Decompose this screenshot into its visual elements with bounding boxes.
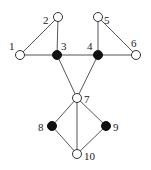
edge-3-7 (57, 55, 77, 98)
node-4 (94, 51, 103, 60)
node-label-2: 2 (43, 14, 49, 26)
node-8 (48, 122, 57, 131)
nodes-layer (16, 13, 141, 159)
node-7 (73, 94, 82, 103)
node-label-4: 4 (87, 40, 93, 52)
edge-7-8 (52, 98, 77, 126)
edge-1-2 (20, 17, 58, 55)
node-10 (73, 150, 82, 159)
node-6 (132, 51, 141, 60)
edge-8-10 (52, 126, 77, 154)
edge-2-3 (57, 17, 58, 55)
node-label-5: 5 (104, 14, 110, 26)
node-label-6: 6 (131, 37, 137, 49)
node-label-1: 1 (9, 40, 15, 52)
node-label-9: 9 (113, 121, 119, 133)
node-1 (16, 51, 25, 60)
node-9 (102, 122, 111, 131)
edge-7-9 (77, 98, 106, 126)
node-2 (54, 13, 63, 22)
node-label-7: 7 (84, 93, 90, 105)
graph-diagram: 12345678910 (0, 0, 151, 170)
node-5 (94, 13, 103, 22)
edge-4-7 (77, 55, 98, 98)
node-label-3: 3 (61, 40, 67, 52)
node-label-8: 8 (38, 121, 44, 133)
node-label-10: 10 (84, 150, 96, 162)
edges-layer (20, 17, 136, 154)
